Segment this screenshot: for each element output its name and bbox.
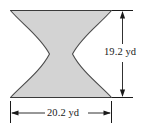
horizontal-dim-arrow-right-icon bbox=[104, 110, 112, 115]
width-dimension-label: 20.2 yd bbox=[47, 108, 79, 119]
vertical-dim-arrow-down-icon bbox=[120, 90, 125, 98]
horizontal-dim-arrow-left-icon bbox=[11, 110, 19, 115]
shaded-region-shape bbox=[11, 11, 112, 98]
vertical-dim-arrow-up-icon bbox=[120, 11, 125, 19]
geometry-figure: 19.2 yd 20.2 yd bbox=[0, 0, 143, 129]
height-dimension-label: 19.2 yd bbox=[104, 47, 136, 58]
